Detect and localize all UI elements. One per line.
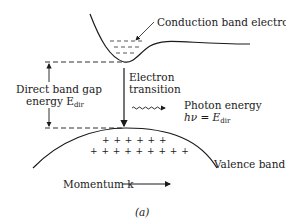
holes-row-2: + + + + + + + + + bbox=[90, 145, 189, 157]
band-gap-sub: dir bbox=[74, 101, 84, 109]
electron-transition-label-2: transition bbox=[129, 83, 181, 95]
band-gap-label-2: energy Edir bbox=[26, 95, 84, 111]
conduction-electrons bbox=[110, 41, 145, 53]
band-gap-label-1: Direct band gap bbox=[16, 83, 102, 95]
electron-transition-label-1: Electron bbox=[129, 71, 174, 83]
conduction-band-label: Conduction band electrons bbox=[157, 16, 286, 28]
band-diagram: Conduction band electrons Electron trans… bbox=[0, 0, 286, 223]
diagram-graphics bbox=[0, 0, 286, 223]
conduction-pointer-icon bbox=[136, 22, 154, 40]
photon-energy-formula-lhs: hν = E bbox=[184, 111, 220, 123]
photon-energy-formula-sub: dir bbox=[220, 117, 230, 125]
momentum-label: Momentum k bbox=[63, 178, 134, 190]
band-gap-prefix: energy E bbox=[26, 95, 74, 107]
panel-label: (a) bbox=[135, 206, 149, 218]
photon-energy-formula: hν = Edir bbox=[184, 111, 230, 127]
valence-band-label: Valence band bbox=[214, 158, 285, 170]
photon-energy-label: Photon energy bbox=[184, 99, 262, 111]
photon-wave-arrow-icon bbox=[132, 107, 165, 109]
